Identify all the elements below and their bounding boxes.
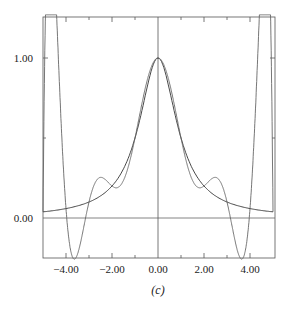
figure-caption: (c) xyxy=(151,283,164,297)
x-tick-label: −2.00 xyxy=(99,263,125,275)
plot-frame xyxy=(43,17,275,258)
y-tick-label: 0.00 xyxy=(14,212,34,224)
x-tick-label: 4.00 xyxy=(240,263,260,275)
chart: −4.00 −2.00 0.00 2.00 4.00 0.00 1.00 (c) xyxy=(0,0,290,310)
x-tick-label: 2.00 xyxy=(194,263,214,275)
y-tick-label: 1.00 xyxy=(14,52,34,64)
x-tick-label: −4.00 xyxy=(53,263,79,275)
x-ticks xyxy=(43,17,275,258)
x-tick-label: 0.00 xyxy=(148,263,168,275)
